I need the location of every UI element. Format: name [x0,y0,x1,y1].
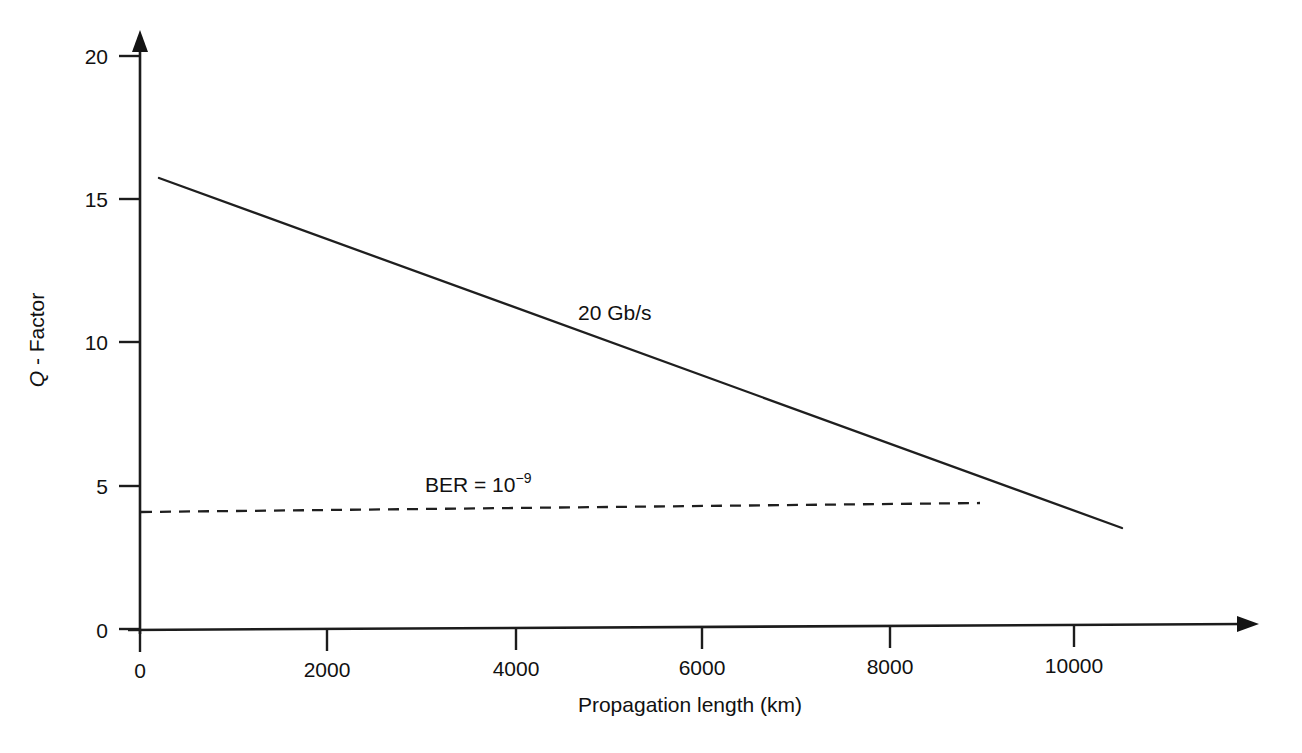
x-tick-label-10000: 10000 [1045,654,1103,677]
y-tick-label-20: 20 [85,45,108,68]
q-factor-line-chart: 20 15 10 5 0 Q - Factor [0,0,1302,753]
x-axis-title: Propagation length (km) [578,693,802,716]
y-tick-label-0: 0 [96,619,108,642]
x-tick-label-4000: 4000 [493,657,540,680]
y-tick-label-15: 15 [85,188,108,211]
x-tick-label-0: 0 [134,659,146,682]
y-tick-label-5: 5 [96,475,108,498]
x-tick-label-2000: 2000 [304,658,351,681]
chart-figure: 20 15 10 5 0 Q - Factor [0,0,1302,753]
annotation-ber-prefix: BER = 10 [425,473,515,496]
annotation-label-20gbs: 20 Gb/s [578,301,652,324]
x-tick-label-6000: 6000 [679,656,726,679]
y-tick-label-10: 10 [85,331,108,354]
y-axis-title-rest: - Factor [25,293,48,371]
x-tick-label-8000: 8000 [867,655,914,678]
y-axis-title-italic: Q [25,371,48,387]
svg-text:Q - Factor: Q - Factor [25,293,48,388]
y-axis-title: Q - Factor [25,293,48,388]
chart-background [0,0,1302,753]
annotation-ber-exponent: −9 [515,470,531,486]
